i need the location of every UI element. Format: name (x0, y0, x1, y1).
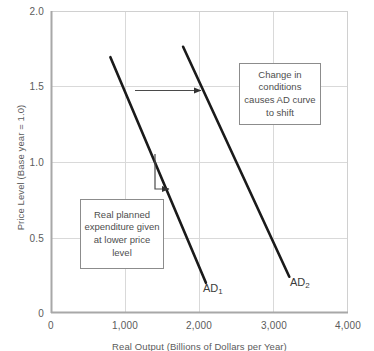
ad2-label: AD2 (290, 276, 310, 288)
expenditure-callout-box: Real planned expenditure given at lower … (80, 199, 164, 269)
x-tick-2000: 2,000 (186, 320, 212, 331)
chart-figure: 2.0 1.5 1.0 0.5 0 0 1,000 2,000 3,000 4,… (0, 0, 374, 351)
x-tick-0: 0 (48, 320, 54, 331)
shift-callout-box: Change in conditions causes AD curve to … (239, 63, 321, 125)
ad2-label-subscript: 2 (305, 281, 309, 290)
ad1-label: AD1 (203, 282, 223, 294)
x-tick-4000: 4,000 (335, 320, 361, 331)
x-tick-3000: 3,000 (261, 320, 287, 331)
x-axis-title: Real Output (Billions of Dollars per Yea… (51, 341, 348, 351)
ad1-label-subscript: 1 (218, 287, 222, 296)
y-tick-2: 2.0 (18, 6, 44, 17)
ad1-label-text: AD (203, 282, 218, 294)
y-axis-title: Price Level (Base year = 1.0) (15, 88, 26, 248)
ad2-label-text: AD (290, 276, 305, 288)
chart-plot-svg (0, 0, 374, 351)
y-tick-0: 0 (18, 308, 44, 319)
x-tick-1000: 1,000 (112, 320, 138, 331)
